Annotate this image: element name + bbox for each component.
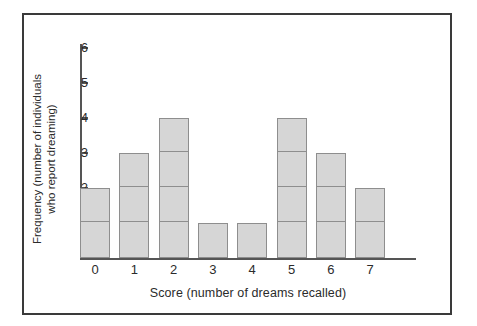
x-tick-label: 5 xyxy=(275,262,309,278)
bar-unit-divider xyxy=(356,221,384,222)
histogram-figure: 654321 01234567 Score (number of dreams … xyxy=(0,0,477,326)
bar-unit-divider xyxy=(278,221,306,222)
histogram-bar xyxy=(198,223,228,258)
y-tick-label-wrap: 6 xyxy=(56,42,88,54)
y-axis-title: Frequency (number of individuals who rep… xyxy=(30,54,58,264)
y-axis-title-line-1: Frequency (number of individuals xyxy=(30,54,44,264)
y-tick-label: 3 xyxy=(72,147,88,159)
histogram-bar xyxy=(355,188,385,258)
y-tick-label: 4 xyxy=(72,112,88,124)
bar-unit-divider xyxy=(160,151,188,152)
histogram-bar xyxy=(159,118,189,258)
x-tick-label: 0 xyxy=(78,262,112,278)
histogram-bar xyxy=(316,153,346,258)
bar-unit-divider xyxy=(81,221,109,222)
x-tick-label: 3 xyxy=(196,262,230,278)
histogram-bar xyxy=(80,188,110,258)
bar-unit-divider xyxy=(160,221,188,222)
bar-unit-divider xyxy=(317,186,345,187)
histogram-bar xyxy=(119,153,149,258)
y-tick-label: 5 xyxy=(72,77,88,89)
y-tick-label-wrap: 3 xyxy=(56,147,88,159)
x-tick-label: 6 xyxy=(314,262,348,278)
bar-unit-divider xyxy=(278,186,306,187)
bar-unit-divider xyxy=(120,221,148,222)
x-tick-label: 4 xyxy=(235,262,269,278)
bar-unit-divider xyxy=(120,186,148,187)
y-tick-label-wrap: 4 xyxy=(56,112,88,124)
histogram-bar xyxy=(237,223,267,258)
bar-unit-divider xyxy=(317,221,345,222)
histogram-bar xyxy=(277,118,307,258)
x-axis-line xyxy=(80,258,416,260)
bar-unit-divider xyxy=(278,151,306,152)
x-tick-label: 1 xyxy=(117,262,151,278)
y-tick-label-wrap: 5 xyxy=(56,77,88,89)
x-axis-title: Score (number of dreams recalled) xyxy=(80,286,416,300)
y-tick-label: 6 xyxy=(72,42,88,54)
plot-area: 654321 01234567 Score (number of dreams … xyxy=(0,0,477,326)
y-axis-title-line-2: who report dreaming) xyxy=(44,54,58,264)
bar-unit-divider xyxy=(160,186,188,187)
x-tick-label: 2 xyxy=(157,262,191,278)
x-tick-label: 7 xyxy=(353,262,387,278)
